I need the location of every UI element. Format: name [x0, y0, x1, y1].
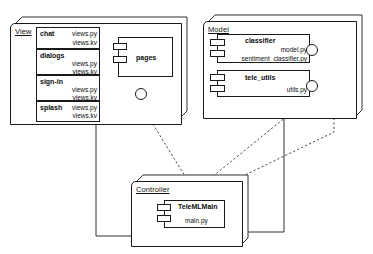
component-teleml-main-file-0: main.py — [185, 217, 208, 224]
component-classifier-file-0: model.py — [281, 46, 307, 53]
interface-pages-lollipop[interactable] — [135, 88, 147, 100]
package-controller-label: Controller — [136, 185, 170, 194]
component-splash[interactable]: splash views.py views.kv — [36, 101, 100, 122]
package-view[interactable]: View chat views.py views.kv dialogs view… — [10, 16, 188, 124]
package-model[interactable]: Model classifier model.py sentiment_clas… — [203, 14, 363, 120]
component-chat-file-0: views.py — [72, 30, 97, 37]
interface-tele-utils-lollipop[interactable] — [306, 80, 318, 92]
component-splash-file-0: views.py — [72, 104, 97, 111]
component-classifier[interactable]: classifier model.py sentiment_classifier… — [217, 34, 310, 63]
component-sign-in-file-0: views.py — [72, 86, 97, 93]
component-dialogs-file-1: views.kv — [72, 68, 97, 75]
component-tele-utils[interactable]: tele_utils utils.py — [217, 70, 310, 97]
component-teleml-main[interactable]: TeleMLMain main.py — [164, 200, 225, 228]
package-view-label: View — [15, 27, 32, 36]
interface-classifier-lollipop[interactable] — [306, 44, 318, 56]
component-sign-in-file-1: views.kv — [72, 94, 97, 101]
component-dialogs-file-0: views.py — [72, 60, 97, 67]
component-chat-name: chat — [40, 30, 54, 37]
component-tele-utils-tab-upper — [210, 74, 225, 81]
component-teleml-main-name: TeleMLMain — [178, 203, 218, 210]
component-tele-utils-name: tele_utils — [245, 74, 275, 81]
component-classifier-tab-lower — [210, 50, 225, 57]
component-classifier-tab-upper — [210, 39, 225, 46]
component-tele-utils-tab-lower — [210, 85, 225, 92]
component-tele-utils-file-0: utils.py — [287, 86, 307, 93]
component-pages-port-lower[interactable] — [113, 56, 127, 63]
component-splash-name: splash — [40, 104, 62, 111]
component-classifier-name: classifier — [245, 37, 275, 44]
component-sign-in[interactable]: sign-in views.py views.kv — [36, 75, 100, 101]
component-splash-file-1: views.kv — [72, 112, 97, 119]
uml-component-diagram: View chat views.py views.kv dialogs view… — [0, 0, 373, 254]
component-pages-name: pages — [136, 54, 156, 61]
component-chat-file-1: views.kv — [72, 39, 97, 46]
component-dialogs[interactable]: dialogs views.py views.kv — [36, 49, 100, 75]
component-classifier-file-1: sentiment_classifier.py — [242, 55, 307, 62]
component-pages-port-upper[interactable] — [113, 43, 127, 50]
component-sign-in-name: sign-in — [40, 78, 63, 85]
package-controller[interactable]: Controller TeleMLMain main.py — [131, 174, 249, 248]
component-teleml-main-tab-upper — [157, 204, 171, 211]
component-teleml-main-tab-lower — [157, 215, 171, 222]
component-dialogs-name: dialogs — [40, 52, 65, 59]
package-model-label: Model — [208, 25, 229, 34]
component-chat[interactable]: chat views.py views.kv — [36, 27, 100, 49]
